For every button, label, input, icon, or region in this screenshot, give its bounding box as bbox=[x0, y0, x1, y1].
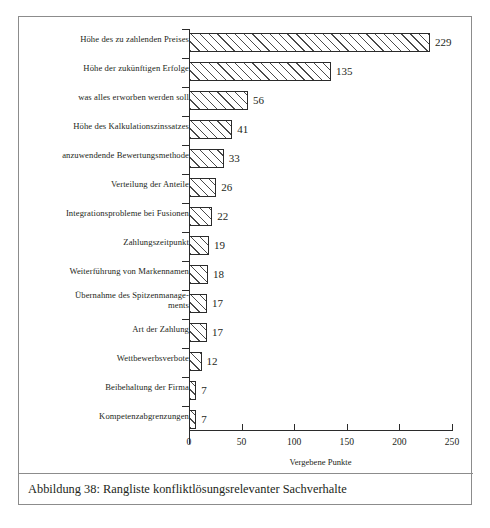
bar-row: Verteilung der Anteile26 bbox=[19, 174, 473, 203]
bar bbox=[189, 410, 196, 429]
category-axis-tick bbox=[182, 232, 190, 233]
bar bbox=[189, 352, 202, 371]
category-axis-tick bbox=[182, 145, 190, 146]
bar bbox=[189, 149, 224, 168]
bar-value-label: 26 bbox=[216, 178, 232, 197]
figure-frame: Höhe des zu zahlenden Preises229Höhe der… bbox=[18, 16, 472, 505]
bar-category-label: Kompetenzabgrenzungen bbox=[19, 406, 189, 421]
bar-row: Zahlungszeitpunkt19 bbox=[19, 232, 473, 261]
bar-value-label: 33 bbox=[224, 149, 240, 168]
bar-value-label: 41 bbox=[232, 120, 248, 139]
value-axis-tick bbox=[294, 424, 295, 431]
bar-category-label: Art der Zahlung bbox=[19, 319, 189, 334]
bar-chart-plot-area: Höhe des zu zahlenden Preises229Höhe der… bbox=[19, 17, 473, 473]
figure-caption: Abbildung 38: Rangliste konfliktlösungsr… bbox=[19, 474, 473, 505]
category-axis-line bbox=[189, 29, 190, 444]
value-axis-tick-label: 150 bbox=[340, 436, 354, 447]
bar-category-label: Höhe des Kalkulationszinssatzes bbox=[19, 116, 189, 131]
bar-category-label: Verteilung der Anteile bbox=[19, 174, 189, 189]
value-axis-tick bbox=[399, 424, 400, 431]
bar bbox=[189, 265, 208, 284]
value-axis-tick-label: 50 bbox=[237, 436, 247, 447]
bar bbox=[189, 33, 430, 52]
category-axis-tick bbox=[182, 87, 190, 88]
bar-value-label: 7 bbox=[196, 410, 207, 429]
category-axis-tick bbox=[182, 348, 190, 349]
bar-row: Wettbewerbsverbote12 bbox=[19, 348, 473, 377]
bar-value-label: 135 bbox=[331, 62, 353, 81]
bar-row: Übernahme des Spitzenmanage-ments17 bbox=[19, 290, 473, 319]
bar bbox=[189, 294, 207, 313]
category-axis-tick bbox=[182, 261, 190, 262]
bar bbox=[189, 381, 196, 400]
bar-value-label: 229 bbox=[430, 33, 452, 52]
value-axis-tick bbox=[347, 424, 348, 431]
bar-row: Art der Zahlung17 bbox=[19, 319, 473, 348]
bar-category-label: Übernahme des Spitzenmanage-ments bbox=[19, 290, 189, 311]
value-axis-tick bbox=[189, 424, 190, 431]
bar-category-label: Höhe der zukünftigen Erfolge bbox=[19, 58, 189, 73]
bar-category-label: was alles erworben werden soll bbox=[19, 87, 189, 102]
bar-row: was alles erworben werden soll56 bbox=[19, 87, 473, 116]
bar bbox=[189, 62, 331, 81]
category-axis-tick bbox=[182, 174, 190, 175]
bar-value-label: 18 bbox=[208, 265, 224, 284]
bar bbox=[189, 178, 216, 197]
value-axis-line bbox=[189, 430, 452, 431]
category-axis-tick bbox=[182, 203, 190, 204]
value-axis-tick bbox=[452, 424, 453, 431]
bar-category-label: Wettbewerbsverbote bbox=[19, 348, 189, 363]
x-axis-title: Vergebene Punkte bbox=[189, 457, 452, 467]
category-axis-tick bbox=[182, 406, 190, 407]
bar-value-label: 7 bbox=[196, 381, 207, 400]
bar-value-label: 12 bbox=[202, 352, 218, 371]
bar-value-label: 19 bbox=[209, 236, 225, 255]
category-axis-tick bbox=[182, 290, 190, 291]
bar-row: Höhe des Kalkulationszinssatzes41 bbox=[19, 116, 473, 145]
bar bbox=[189, 120, 232, 139]
bar-category-label: Integrationsprobleme bei Fusionen bbox=[19, 203, 189, 218]
bar-row: Höhe des zu zahlenden Preises229 bbox=[19, 29, 473, 58]
bar-category-label: Weiterführung von Markennamen bbox=[19, 261, 189, 276]
value-axis-tick bbox=[242, 424, 243, 431]
bar-row: Integrationsprobleme bei Fusionen22 bbox=[19, 203, 473, 232]
value-axis-tick-label: 250 bbox=[445, 436, 459, 447]
category-axis-tick bbox=[182, 29, 190, 30]
value-axis-tick-label: 200 bbox=[392, 436, 406, 447]
bar-value-label: 17 bbox=[207, 323, 223, 342]
bar-category-label: Beibehaltung der Firma bbox=[19, 377, 189, 392]
category-axis-tick bbox=[182, 116, 190, 117]
bar-value-label: 17 bbox=[207, 294, 223, 313]
bar-category-label: Zahlungszeitpunkt bbox=[19, 232, 189, 247]
category-axis-tick bbox=[182, 58, 190, 59]
bar-row: anzuwendende Bewertungsmethode33 bbox=[19, 145, 473, 174]
bar-value-label: 22 bbox=[212, 207, 228, 226]
bar bbox=[189, 91, 248, 110]
value-axis-tick-label: 0 bbox=[187, 436, 192, 447]
bar-row: Beibehaltung der Firma7 bbox=[19, 377, 473, 406]
bar bbox=[189, 323, 207, 342]
bar bbox=[189, 207, 212, 226]
value-axis-tick-label: 100 bbox=[287, 436, 301, 447]
category-axis-tick bbox=[182, 377, 190, 378]
bar bbox=[189, 236, 209, 255]
bar-category-label: anzuwendende Bewertungsmethode bbox=[19, 145, 189, 160]
category-axis-tick bbox=[182, 319, 190, 320]
bar-row: Weiterführung von Markennamen18 bbox=[19, 261, 473, 290]
bar-value-label: 56 bbox=[248, 91, 264, 110]
bar-category-label: Höhe des zu zahlenden Preises bbox=[19, 29, 189, 44]
bar-row: Höhe der zukünftigen Erfolge135 bbox=[19, 58, 473, 87]
